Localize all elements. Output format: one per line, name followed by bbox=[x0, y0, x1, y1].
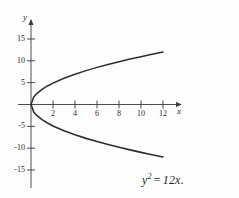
y-tick-label-5: 5 bbox=[21, 79, 25, 87]
x-tick-label-12: 12 bbox=[159, 110, 167, 118]
x-axis-label: x bbox=[177, 107, 181, 116]
x-tick-label-6: 6 bbox=[95, 110, 99, 118]
y-tick-label-neg15: -15 bbox=[14, 166, 25, 174]
equation-right: 12x. bbox=[163, 173, 184, 187]
y-tick-label-10: 10 bbox=[17, 57, 25, 65]
y-tick-label-15: 15 bbox=[17, 35, 25, 43]
plot-canvas bbox=[0, 0, 239, 198]
x-tick-label-10: 10 bbox=[137, 110, 145, 118]
y-tick-label-neg5: -5 bbox=[18, 122, 25, 130]
equation-exponent: 2 bbox=[148, 172, 152, 181]
parabola-figure: 2 4 6 8 10 12 15 10 5 -5 -10 -15 y x y2=… bbox=[0, 0, 239, 198]
equation-operator: = bbox=[154, 173, 161, 187]
y-tick-label-neg10: -10 bbox=[14, 144, 25, 152]
equation-caption: y2=12x. bbox=[142, 172, 184, 188]
y-axis-label: y bbox=[23, 13, 27, 22]
x-tick-label-4: 4 bbox=[73, 110, 77, 118]
x-tick-label-2: 2 bbox=[51, 110, 55, 118]
parabola-upper-branch bbox=[31, 52, 163, 104]
x-tick-label-8: 8 bbox=[117, 110, 121, 118]
